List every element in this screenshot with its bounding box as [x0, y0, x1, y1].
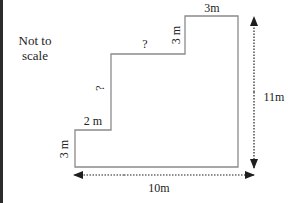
label-middle-run: ?: [142, 37, 147, 51]
label-total-width: 10m: [148, 181, 170, 195]
not-to-scale-note-line1: Not to: [19, 33, 52, 48]
label-middle-rise: ?: [93, 85, 107, 90]
label-top-width: 3m: [204, 1, 220, 15]
label-left-step-width: 2 m: [84, 114, 103, 128]
label-total-height: 11m: [264, 90, 286, 104]
not-to-scale-note-line2: scale: [22, 48, 48, 63]
staircase-diagram: Not to scale 3 m 2 m ? ? 3 m 3m 11m 10m: [0, 0, 302, 203]
label-upper-step-height: 3 m: [169, 25, 183, 44]
label-left-step-height: 3 m: [57, 139, 71, 158]
